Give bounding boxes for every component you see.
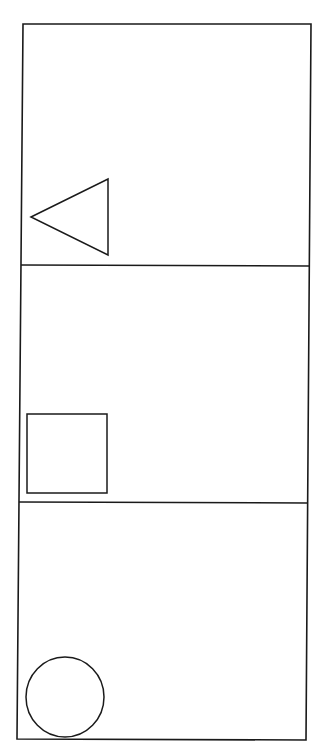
outer-frame — [17, 24, 311, 740]
panel-1 — [31, 179, 108, 255]
panel-3 — [26, 657, 104, 737]
panel-divider-1 — [21, 265, 309, 266]
triangle-shape — [31, 179, 108, 255]
panel-2 — [27, 414, 107, 493]
square-shape — [27, 414, 107, 493]
panel-divider-2 — [19, 502, 307, 503]
circle-shape — [26, 657, 104, 737]
shapes-diagram — [0, 0, 329, 747]
